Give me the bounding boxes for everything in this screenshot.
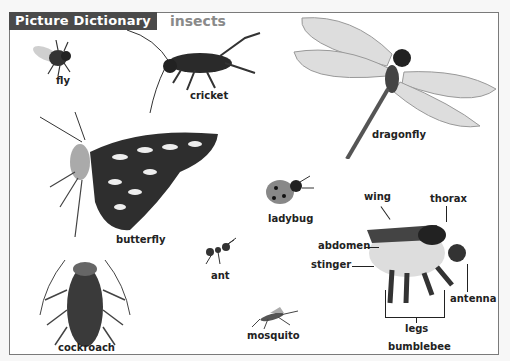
legs-bracket-right [444,290,445,317]
label-abdomen: abdomen [318,240,370,251]
butterfly-illustration [20,112,220,237]
bumblebee-illustration [362,215,477,305]
label-bumblebee: bumblebee [388,341,451,352]
topic-heading: insects [170,13,226,29]
label-cricket: cricket [190,90,228,101]
label-ant: ant [211,270,230,281]
cockroach-illustration [35,255,135,350]
legs-bracket-line [385,317,445,318]
label-thorax: thorax [430,193,467,204]
stinger-leader-line [352,266,374,267]
label-cockroach: cockroach [58,342,115,353]
label-ladybug: ladybug [268,213,313,224]
label-mosquito: mosquito [247,330,300,341]
label-wing: wing [364,191,391,202]
label-antenna: antenna [450,293,496,304]
ant-illustration [200,236,240,266]
antenna-leader-line [467,264,468,292]
label-butterfly: butterfly [116,234,165,245]
label-fly: fly [56,75,70,86]
abdomen-leader-line [365,247,379,248]
fly-illustration [28,38,78,78]
legs-bracket-left [385,290,386,317]
thorax-leader-line [446,206,447,222]
label-stinger: stinger [311,259,351,270]
label-legs: legs [405,323,428,334]
ladybug-illustration [262,170,317,210]
mosquito-illustration [250,305,300,330]
label-dragonfly: dragonfly [372,129,426,140]
